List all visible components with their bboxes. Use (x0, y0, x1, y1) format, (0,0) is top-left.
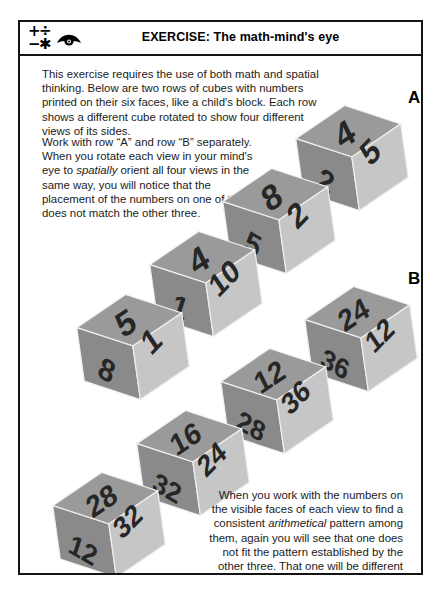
conclusion-emphasis-spatially: spatially (264, 574, 305, 575)
conclusion-paragraph: When you work with the numbers on the vi… (205, 488, 403, 575)
instructions-emphasis-spatially: spatially (76, 164, 117, 176)
intro-paragraph: This exercise requires the use of both m… (42, 67, 327, 138)
cube-row-b-view-4: 28 12 32 (42, 458, 175, 575)
conclusion-text-part3: inconsistent one in that row. (305, 574, 403, 575)
row-label-a: A (408, 88, 420, 108)
page-title: EXERCISE: The math-mind's eye (20, 30, 421, 44)
conclusion-emphasis-arithmetical: arithmetical (268, 517, 326, 529)
exercise-header: + ÷ − ✱ EXERCISE: The math-mind's eye (20, 22, 421, 56)
exercise-page-panel: + ÷ − ✱ EXERCISE: The math-mind's eye Th… (18, 20, 423, 575)
cube-row-a-view-4: 5 8 1 (66, 280, 199, 413)
